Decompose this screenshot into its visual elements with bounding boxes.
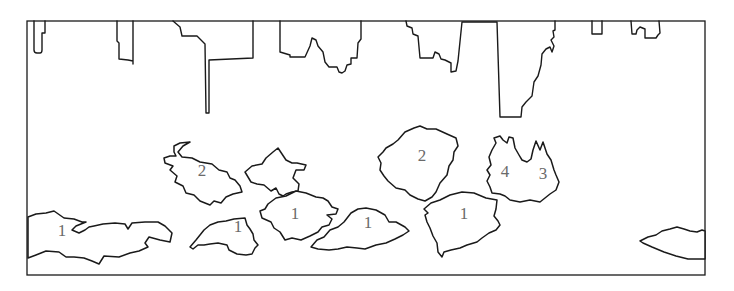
regions: [28, 126, 705, 264]
region-j-outline: [424, 192, 500, 257]
region-d-label: 4: [501, 162, 510, 181]
top-shape-6: [592, 21, 602, 34]
region-k-outline: [640, 227, 705, 259]
region-g-outline: [190, 218, 258, 255]
region-i-label: 1: [364, 213, 373, 232]
region-de-outline: [487, 136, 559, 202]
region-c-label: 2: [418, 146, 427, 165]
region-g-label: 1: [234, 217, 243, 236]
region-b-outline: [245, 148, 306, 196]
region-diagram: 2 2 4 3 1 1 1 1 1: [0, 0, 734, 291]
top-shape-2: [117, 21, 133, 64]
region-f-outline: [28, 211, 172, 264]
top-boundary-shapes: [34, 21, 660, 117]
top-shape-7: [631, 21, 660, 38]
region-e-label: 3: [539, 164, 548, 183]
region-a-label: 2: [198, 161, 207, 180]
top-shape-1: [34, 21, 45, 53]
region-f-label: 1: [58, 221, 67, 240]
region-h-label: 1: [291, 204, 300, 223]
top-shape-4: [280, 21, 361, 73]
top-shape-5: [406, 21, 555, 117]
region-j-label: 1: [460, 204, 469, 223]
top-shape-3: [173, 21, 253, 113]
